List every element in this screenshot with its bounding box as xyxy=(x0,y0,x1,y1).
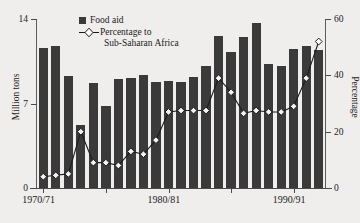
diamond-marker xyxy=(52,172,59,179)
x-axis-tick xyxy=(43,189,44,193)
diamond-marker xyxy=(40,173,47,180)
legend-label-percentage-cont: Sub-Saharan Africa xyxy=(104,38,179,50)
legend-label-percentage: Percentage to xyxy=(100,27,151,39)
legend-item-percentage-line2: Sub-Saharan Africa xyxy=(79,38,179,50)
y-axis-right-tick xyxy=(325,19,331,20)
x-axis-tick xyxy=(169,189,170,193)
diamond-marker xyxy=(203,107,210,114)
open-diamond-line-icon xyxy=(79,27,99,38)
legend-item-food-aid: Food aid xyxy=(79,15,179,27)
y-axis-right-tick-label: 40 xyxy=(334,70,344,80)
filled-square-icon xyxy=(79,17,86,24)
diamond-marker xyxy=(240,110,247,117)
y-axis-right-tick xyxy=(325,75,331,76)
x-axis-tick-label: 1980/81 xyxy=(148,194,181,205)
y-axis-right-title: Percentage xyxy=(350,57,360,137)
y-axis-left-title: Million tons xyxy=(11,57,21,137)
percentage-markers xyxy=(40,38,322,180)
diamond-marker xyxy=(102,159,109,166)
legend-label-food-aid: Food aid xyxy=(90,15,124,27)
y-axis-right-tick xyxy=(325,188,331,189)
y-axis-right-tick-label: 0 xyxy=(334,183,339,193)
y-axis-left-tick-label: 14 xyxy=(8,14,28,24)
diamond-marker xyxy=(65,171,72,178)
y-axis-right-tick-label: 20 xyxy=(334,127,344,137)
y-axis-left-tick-label: 0 xyxy=(8,183,28,193)
diamond-marker xyxy=(265,109,272,116)
diamond-marker xyxy=(253,107,260,114)
diamond-marker xyxy=(77,128,84,135)
x-axis-tick-label: 1970/71 xyxy=(22,194,55,205)
diamond-marker xyxy=(290,103,297,110)
y-axis-right-tick-label: 60 xyxy=(334,14,344,24)
y-axis-right-line xyxy=(325,19,326,189)
legend-item-percentage: Percentage to xyxy=(79,27,179,39)
diamond-marker xyxy=(303,75,310,82)
diamond-marker xyxy=(165,109,172,116)
y-axis-right-tick xyxy=(325,132,331,133)
chart-legend: Food aid Percentage to Sub-Saharan Afric… xyxy=(79,15,179,50)
x-axis-tick xyxy=(294,189,295,193)
diamond-marker xyxy=(90,159,97,166)
x-axis-tick xyxy=(231,189,232,193)
diamond-marker xyxy=(315,38,322,45)
x-axis-tick-label: 1990/91 xyxy=(273,194,306,205)
x-axis-tick xyxy=(106,189,107,193)
diamond-marker xyxy=(178,107,185,114)
x-axis-line xyxy=(30,188,332,189)
diamond-marker xyxy=(190,107,197,114)
y-axis-left-tick xyxy=(31,188,37,189)
diamond-marker xyxy=(278,109,285,116)
